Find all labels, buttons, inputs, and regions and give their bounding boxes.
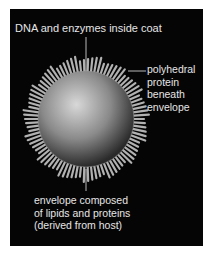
label-dna-enzymes: DNA and enzymes inside coat (15, 22, 162, 35)
label-line: envelope (147, 101, 195, 114)
label-line: of lipids and proteins (34, 207, 130, 220)
label-line: protein (147, 76, 195, 89)
label-envelope: envelope composed of lipids and proteins… (34, 194, 130, 232)
label-polyhedral-protein: polyhedral protein beneath envelope (147, 63, 195, 113)
label-line: beneath (147, 88, 195, 101)
label-line: (derived from host) (34, 219, 130, 232)
label-line: polyhedral (147, 63, 195, 76)
diagram-panel: DNA and enzymes inside coat polyhedral p… (10, 9, 203, 246)
label-line: envelope composed (34, 194, 130, 207)
